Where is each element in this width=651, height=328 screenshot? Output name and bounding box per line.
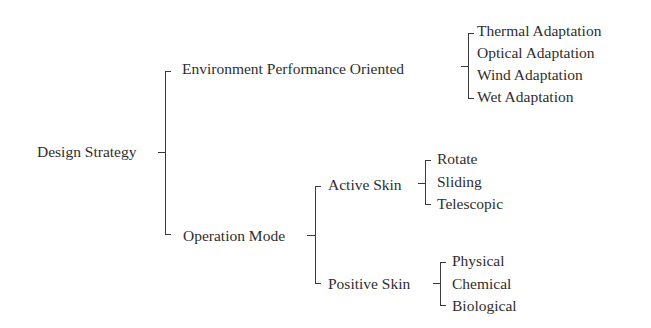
bracket-active-top: [425, 160, 431, 161]
node-environment-performance-oriented: Environment Performance Oriented: [182, 60, 404, 78]
node-active-skin: Active Skin: [328, 176, 402, 194]
bracket-operation-top: [315, 186, 321, 187]
bracket-active: [425, 160, 426, 205]
connector-positive: [433, 283, 440, 284]
bracket-positive: [440, 262, 441, 306]
node-design-strategy: Design Strategy: [37, 143, 136, 161]
leaf-wind-adaptation: Wind Adaptation: [477, 66, 583, 84]
leaf-rotate: Rotate: [437, 150, 477, 168]
bracket-operation-bottom: [315, 283, 321, 284]
leaf-sliding: Sliding: [437, 173, 482, 191]
connector-active: [418, 183, 425, 184]
leaf-chemical: Chemical: [452, 275, 511, 293]
bracket-positive-top: [440, 262, 446, 263]
leaf-biological: Biological: [452, 297, 517, 315]
bracket-active-bottom: [425, 204, 431, 205]
bracket-root-top: [165, 71, 171, 72]
bracket-env-top: [468, 33, 474, 34]
connector-operation: [307, 235, 315, 236]
leaf-telescopic: Telescopic: [437, 195, 503, 213]
bracket-root-bottom: [165, 234, 171, 235]
leaf-physical: Physical: [452, 252, 505, 270]
leaf-optical-adaptation: Optical Adaptation: [477, 44, 595, 62]
bracket-env-bottom: [468, 98, 474, 99]
node-positive-skin: Positive Skin: [328, 275, 410, 293]
bracket-env: [468, 33, 469, 99]
leaf-wet-adaptation: Wet Adaptation: [477, 88, 573, 106]
connector-env: [461, 66, 468, 67]
leaf-thermal-adaptation: Thermal Adaptation: [477, 22, 601, 40]
bracket-root: [165, 71, 166, 234]
connector-root: [158, 152, 165, 153]
bracket-positive-bottom: [440, 305, 446, 306]
bracket-operation: [315, 186, 316, 284]
node-operation-mode: Operation Mode: [183, 227, 285, 245]
